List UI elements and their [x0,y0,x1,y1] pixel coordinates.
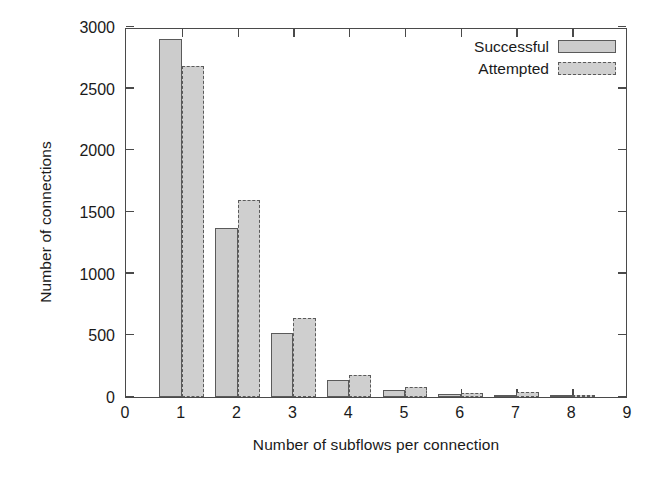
bar-successful-8 [550,395,572,397]
bar-successful-3 [271,333,293,397]
bar-attempted-5 [405,387,427,397]
x-axis-tick-label: 2 [217,404,257,422]
y-axis-tick [126,396,134,397]
bar-successful-2 [215,228,237,397]
legend-label: Attempted [478,60,549,78]
y-axis-tick [618,272,626,273]
x-axis-tick-label: 9 [607,404,647,422]
y-axis-tick-label: 500 [0,327,115,345]
x-axis-tick-label: 5 [384,404,424,422]
bar-attempted-2 [238,200,260,397]
bar-successful-7 [494,395,516,397]
bar-successful-1 [159,39,181,397]
bar-successful-4 [327,380,349,397]
y-axis-tick-label: 1500 [0,204,115,222]
y-axis-tick-label: 1000 [0,266,115,284]
y-axis-tick [618,149,626,150]
x-axis-tick [293,29,294,37]
y-axis-tick-label: 2000 [0,142,115,160]
x-axis-tick [238,29,239,37]
bar-attempted-6 [461,393,483,397]
x-axis-tick-label: 7 [495,404,535,422]
y-axis-tick [618,87,626,88]
x-axis-tick [405,29,406,37]
x-axis-tick-label: 1 [161,404,201,422]
bar-chart-figure: Number of connections Number of subflows… [0,0,656,480]
x-axis-tick [182,29,183,37]
y-axis-tick-label: 2500 [0,81,115,99]
bar-successful-6 [438,394,460,397]
y-axis-tick-label: 3000 [0,19,115,37]
y-axis-tick [618,26,626,27]
x-axis-tick-label: 6 [440,404,480,422]
y-axis-tick [126,272,134,273]
chart-legend: SuccessfulAttempted [468,35,618,80]
bar-attempted-7 [516,392,538,397]
y-axis-tick [618,396,626,397]
x-axis-title: Number of subflows per connection [125,436,627,454]
y-axis-tick [126,334,134,335]
x-axis-tick-label: 0 [105,404,145,422]
y-axis-tick [126,26,134,27]
legend-label: Successful [474,38,549,56]
y-axis-tick [618,334,626,335]
legend-entry-successful: Successful [474,37,616,56]
y-axis-tick [618,211,626,212]
y-axis-title: Number of connections [37,92,55,352]
bar-attempted-3 [293,318,315,397]
bar-successful-5 [383,390,405,397]
legend-swatch-successful [558,40,616,53]
legend-entry-attempted: Attempted [474,59,616,78]
x-axis-tick-label: 8 [551,404,591,422]
y-axis-tick [126,149,134,150]
bar-attempted-4 [349,375,371,397]
bar-attempted-1 [182,66,204,397]
x-axis-tick [461,29,462,37]
y-axis-tick [126,211,134,212]
plot-area: SuccessfulAttempted [125,28,627,398]
bar-attempted-8 [572,395,594,397]
legend-swatch-attempted [558,62,616,75]
x-axis-tick-label: 3 [272,404,312,422]
y-axis-tick-label: 0 [0,389,115,407]
x-axis-tick-label: 4 [328,404,368,422]
x-axis-tick [349,29,350,37]
y-axis-tick [126,87,134,88]
